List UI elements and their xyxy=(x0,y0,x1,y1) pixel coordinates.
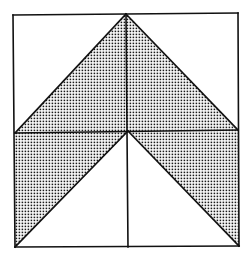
geometry-diagram xyxy=(0,0,245,258)
left-edge xyxy=(13,15,15,247)
bottom-edge xyxy=(15,246,239,247)
